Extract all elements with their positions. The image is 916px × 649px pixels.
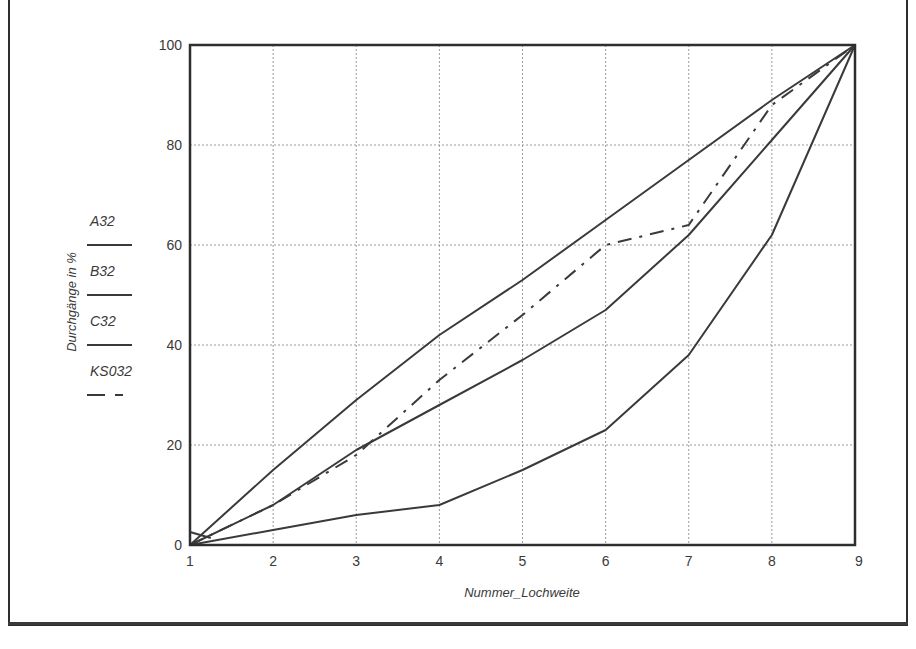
x-tick-label: 2	[269, 553, 277, 569]
y-tick-label: 80	[166, 137, 182, 153]
x-tick-label: 6	[602, 553, 610, 569]
x-tick-label: 8	[768, 553, 776, 569]
x-tick-label: 4	[435, 553, 443, 569]
x-tick-label: 9	[855, 553, 863, 569]
legend: A32B32C32KS032	[87, 213, 132, 395]
line-chart: 020406080100 123456789 Nummer_Lochweite …	[0, 0, 916, 649]
y-tick-label: 0	[174, 537, 182, 553]
y-axis-ticks: 020406080100	[159, 37, 183, 553]
y-tick-label: 20	[166, 437, 182, 453]
x-tick-label: 7	[685, 553, 693, 569]
series-start-stub	[190, 532, 211, 538]
legend-label: KS032	[90, 363, 132, 379]
y-tick-label: 100	[159, 37, 183, 53]
legend-label: A32	[89, 213, 115, 229]
legend-label: C32	[90, 313, 116, 329]
x-axis-label: Nummer_Lochweite	[464, 585, 580, 600]
x-tick-label: 1	[186, 553, 194, 569]
y-tick-label: 60	[166, 237, 182, 253]
legend-label: B32	[90, 263, 115, 279]
y-axis-label: Durchgänge in %	[64, 252, 79, 352]
y-tick-label: 40	[166, 337, 182, 353]
x-tick-label: 5	[519, 553, 527, 569]
x-tick-label: 3	[352, 553, 360, 569]
x-axis-ticks: 123456789	[186, 553, 863, 569]
